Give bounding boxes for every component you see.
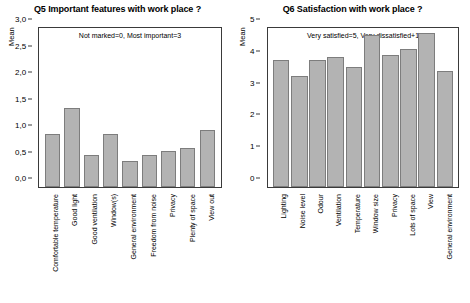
bar: [161, 151, 176, 187]
bar-slot: [363, 28, 381, 187]
bar-slot: [381, 28, 399, 187]
x-axis-labels: LightingNoise levelOdourVentilationTempe…: [267, 192, 459, 300]
bar: [84, 155, 99, 187]
x-axis-label: Comfortable temperature: [52, 194, 59, 272]
bar: [309, 60, 326, 187]
y-axis-tick-mark: [256, 82, 260, 83]
y-axis-tick-mark: [28, 98, 32, 99]
y-axis-tick-label: 1,0: [15, 121, 28, 130]
x-axis-label: Privacy: [391, 194, 398, 217]
y-axis-tick-mark: [28, 19, 32, 20]
x-axis-label-slot: Good ventilation: [81, 192, 101, 300]
y-axis-tick: 0: [250, 174, 260, 183]
x-axis-label: Lighting: [280, 194, 287, 219]
y-axis-tick-mark: [256, 146, 260, 147]
y-axis-tick-label: 2,5: [15, 41, 28, 50]
x-axis-label-slot: Freedom from noise: [140, 192, 160, 300]
y-axis-tick: 3,0: [15, 15, 32, 24]
x-axis-label: Temperature: [354, 194, 361, 233]
x-axis-label: Privacy: [169, 194, 176, 217]
y-axis-tick-mark: [28, 72, 32, 73]
chart-panel-q6: Q6 Satisfaction with work place ? Mean V…: [235, 0, 470, 303]
y-axis-tick: 0,5: [15, 147, 32, 156]
bar: [400, 49, 417, 187]
bar-slot: [290, 28, 308, 187]
bar: [273, 60, 290, 187]
x-axis-label-slot: Lighting: [271, 192, 289, 300]
bar-slot: [399, 28, 417, 187]
y-axis-tick-mark: [28, 125, 32, 126]
bar-slot: [140, 28, 159, 187]
bar: [418, 33, 435, 187]
x-axis-label-slot: Noise level: [289, 192, 307, 300]
bar: [103, 134, 118, 187]
x-axis-label-slot: Lots of space: [400, 192, 418, 300]
x-axis-label-slot: General environment: [437, 192, 455, 300]
bar: [200, 130, 215, 187]
x-axis-label-slot: General environment: [120, 192, 140, 300]
y-axis-tick-label: 3,0: [15, 15, 28, 24]
y-axis-tick: 4: [250, 46, 260, 55]
bar-slot: [43, 28, 62, 187]
y-axis-tick: 5: [250, 15, 260, 24]
x-axis-label: Window(s): [110, 194, 117, 227]
y-axis-tick: 0,0: [15, 174, 32, 183]
x-axis-label: Noise level: [299, 194, 306, 228]
y-axis-tick: 1,5: [15, 94, 32, 103]
x-axis-label-slot: Good light: [62, 192, 82, 300]
x-axis-label-slot: Privacy: [159, 192, 179, 300]
x-axis-label: Lots of space: [409, 194, 416, 236]
y-axis-tick-label: 2,0: [15, 68, 28, 77]
bar: [382, 55, 399, 187]
x-axis-label: View out: [208, 194, 215, 221]
bar: [122, 161, 137, 188]
y-axis-tick: 1: [250, 142, 260, 151]
bar: [327, 57, 344, 187]
bar-slot: [418, 28, 436, 187]
y-axis-tick-mark: [28, 151, 32, 152]
x-axis-label: Plenty of space: [189, 194, 196, 242]
x-axis-label: Good ventilation: [91, 194, 98, 245]
figure-two-bar-charts: Q5 Important features with work place ? …: [0, 0, 470, 303]
bar: [364, 35, 381, 187]
bar-slot: [345, 28, 363, 187]
y-axis-tick-mark: [28, 45, 32, 46]
bar-slot: [436, 28, 454, 187]
x-axis-labels: Comfortable temperatureGood lightGood ve…: [38, 192, 222, 300]
x-axis-label-slot: Window(s): [101, 192, 121, 300]
y-axis-label: Mean: [238, 27, 247, 46]
bar-slot: [120, 28, 139, 187]
bar: [45, 134, 60, 187]
x-axis-label-slot: Window size: [363, 192, 381, 300]
x-axis-label: Ventilation: [335, 194, 342, 226]
y-axis-tick-label: 1,5: [15, 94, 28, 103]
y-axis-tick-mark: [28, 178, 32, 179]
y-axis-tick-mark: [256, 114, 260, 115]
bar-slot: [272, 28, 290, 187]
plot-area-q6: Very satisfied=5, Very dissatisfied+1 01…: [267, 27, 459, 188]
y-axis-tick-label: 0,0: [15, 174, 28, 183]
y-axis-tick: 2,0: [15, 68, 32, 77]
y-axis-tick: 1,0: [15, 121, 32, 130]
bar-slot: [62, 28, 81, 187]
x-axis-label: Freedom from noise: [150, 194, 157, 257]
x-axis-label-slot: Odour: [308, 192, 326, 300]
bar-slot: [178, 28, 197, 187]
y-axis-tick: 2: [250, 110, 260, 119]
page-title: Q6 Satisfaction with work place ?: [235, 4, 470, 14]
plot-area-q5: Not marked=0, Most important=3 0,00,51,0…: [38, 27, 222, 188]
y-axis-tick: 2,5: [15, 41, 32, 50]
x-axis-label: General environment: [130, 194, 137, 259]
page-title: Q5 Important features with work place ?: [0, 4, 235, 14]
bar-slot: [198, 28, 217, 187]
bar: [142, 155, 157, 187]
bar: [437, 71, 454, 187]
y-axis-tick: 3: [250, 78, 260, 87]
bar: [291, 76, 308, 187]
x-axis-label-slot: Privacy: [381, 192, 399, 300]
x-axis-label: Window size: [372, 194, 379, 233]
bar-slot: [159, 28, 178, 187]
y-axis-tick-mark: [256, 19, 260, 20]
chart-panel-q5: Q5 Important features with work place ? …: [0, 0, 235, 303]
y-axis-tick-label: 0,5: [15, 147, 28, 156]
